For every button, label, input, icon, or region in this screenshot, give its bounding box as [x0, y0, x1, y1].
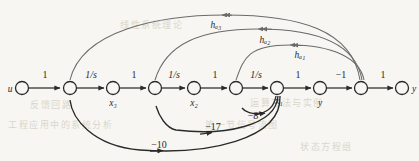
node-x2[interactable] [188, 82, 201, 95]
node-x1[interactable] [271, 82, 284, 95]
node-label-u: u [8, 84, 13, 94]
node-label-y1: y [317, 98, 323, 108]
gain-label-ha2: hₐ₂ [260, 35, 272, 45]
node-n3[interactable] [230, 82, 243, 95]
arc-neg10 [70, 96, 280, 151]
gain-label-u-n1: 1 [43, 69, 48, 80]
gain-label-ha1: hₐ₁ [295, 50, 306, 60]
lower-feedback-group [70, 96, 280, 151]
gain-label-x2-n3: 1 [213, 69, 218, 80]
gain-label-x1-y1: 1 [296, 69, 301, 80]
gain-label-x3-n2: 1 [132, 69, 137, 80]
node-u[interactable] [16, 82, 29, 95]
node-label-x2: x₂ [189, 98, 198, 108]
gain-label-ha3: hₐ₃ [211, 20, 222, 30]
arc-neg17-head [200, 133, 212, 135]
upper-feedback-labels: hₐ₃ hₐ₂ hₐ₁ [211, 20, 306, 60]
figure-canvas: 工程应用中的系统分析 第一节信号流图 运算方法与实例 状态方程组 线性系统理论 … [0, 0, 419, 161]
gain-label-n4-y2: 1 [381, 69, 386, 80]
arc-neg10-head [150, 151, 163, 152]
node-n1[interactable] [64, 82, 77, 95]
lower-feedback-labels: −8 −17 −10 [151, 110, 258, 150]
gain-label-neg8: −8 [248, 110, 259, 121]
node-label-y2: y [411, 84, 417, 94]
node-label-x3: x₃ [108, 98, 117, 108]
node-y2[interactable] [396, 82, 409, 95]
gain-label-neg17: −17 [205, 121, 221, 132]
node-x3[interactable] [107, 82, 120, 95]
signal-flow-graph: u x₃ x₂ x₁ y y 1 1/s 1 1/s 1 1/s 1 −1 1 … [0, 0, 419, 161]
gain-label-n3-x1: 1/s [250, 69, 262, 80]
gain-label-n1-x3: 1/s [85, 69, 97, 80]
node-n4[interactable] [355, 82, 368, 95]
forward-gain-labels: 1 1/s 1 1/s 1 1/s 1 −1 1 [43, 69, 386, 80]
gain-label-n2-x2: 1/s [168, 69, 180, 80]
gain-label-neg10: −10 [151, 139, 167, 150]
node-y1[interactable] [314, 82, 327, 95]
gain-label-y1-n4: −1 [336, 69, 347, 80]
node-label-x1: x₁ [274, 96, 283, 106]
node-n2[interactable] [149, 82, 162, 95]
